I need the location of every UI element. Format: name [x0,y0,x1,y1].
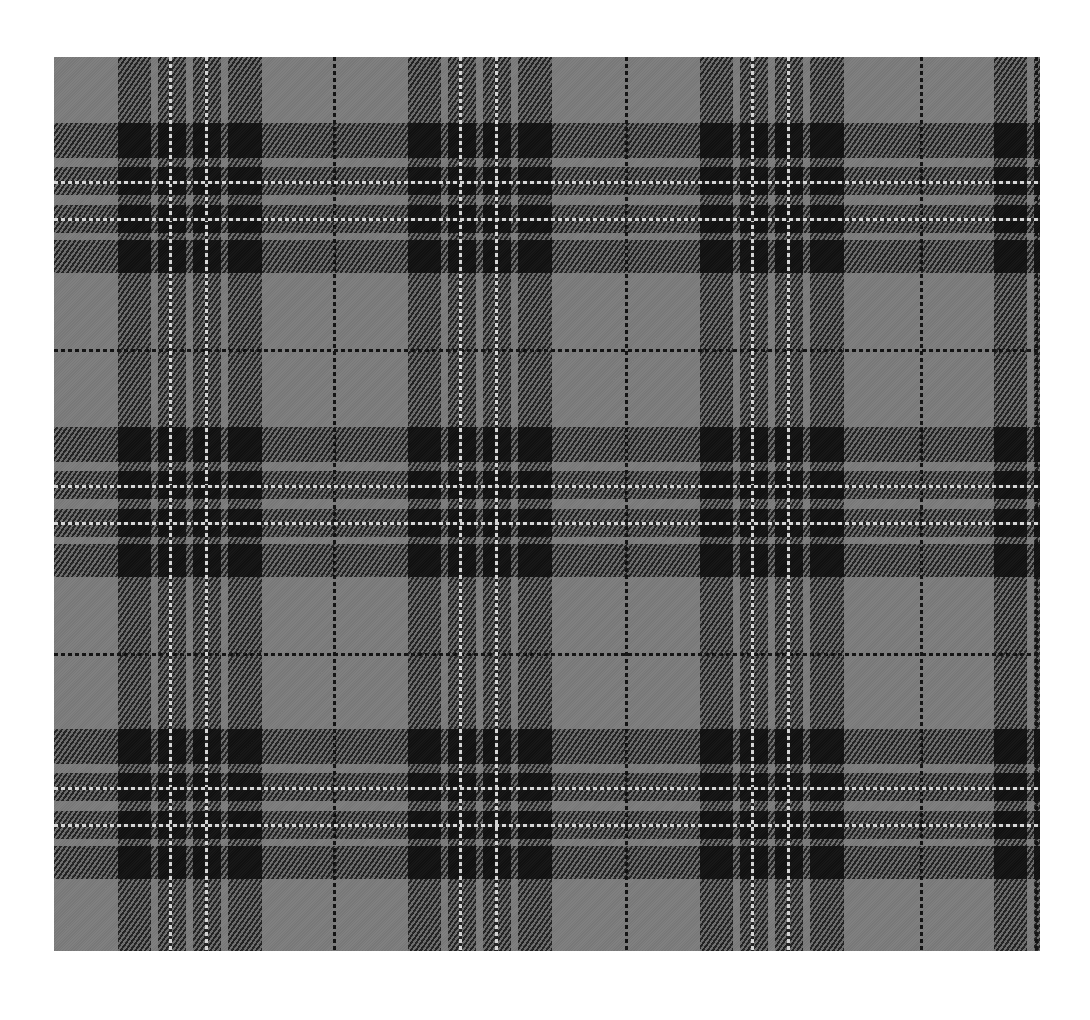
stripe-intersection [740,427,768,462]
stripe-intersection [118,427,151,462]
stripe-intersection [518,240,552,273]
stripe-intersection [408,846,441,879]
stripe-intersection [158,846,186,879]
stripe-intersection [810,427,844,462]
stripe-intersection [810,846,844,879]
stripe-intersection [408,544,441,577]
vertical-thin-line [333,57,336,951]
stripe-intersection [228,427,262,462]
stripe-intersection [700,729,733,764]
tartan-swatch [54,57,1040,951]
stripe-intersection [448,240,476,273]
stripe-intersection [994,846,1027,879]
stripe-intersection [228,846,262,879]
stripe-intersection [408,240,441,273]
stripe-intersection [448,427,476,462]
stripe-intersection [700,240,733,273]
stripe-intersection [810,240,844,273]
vertical-white-pinstripe [459,57,462,951]
stripe-intersection [408,123,441,158]
horizontal-white-pinstripe [54,485,1040,488]
stripe-intersection [448,846,476,879]
horizontal-white-pinstripe [54,218,1040,221]
stripe-intersection [518,123,552,158]
stripe-intersection [994,544,1027,577]
horizontal-thin-line [54,653,1040,656]
stripe-intersection [158,240,186,273]
vertical-thin-line [920,57,923,951]
stripe-intersection [740,544,768,577]
stripe-intersection [700,846,733,879]
stripe-intersection [810,544,844,577]
stripe-intersection [118,123,151,158]
stripe-intersection [740,123,768,158]
vertical-thin-line [1035,57,1038,951]
stripe-intersection [118,240,151,273]
stripe-intersection [810,123,844,158]
stripe-intersection [700,123,733,158]
vertical-white-pinstripe [787,57,790,951]
vertical-white-pinstripe [495,57,498,951]
stripe-intersection [158,123,186,158]
stripe-intersection [118,846,151,879]
stripe-intersection [158,544,186,577]
horizontal-white-pinstripe [54,522,1040,525]
stripe-intersection [408,427,441,462]
stripe-intersection [700,544,733,577]
vertical-white-pinstripe [169,57,172,951]
stripe-intersection [994,123,1027,158]
stripe-intersection [994,729,1027,764]
stripe-intersection [448,123,476,158]
stripe-intersection [518,427,552,462]
stripe-intersection [740,240,768,273]
stripe-intersection [448,729,476,764]
horizontal-white-pinstripe [54,824,1040,827]
horizontal-white-pinstripe [54,787,1040,790]
stripe-intersection [740,846,768,879]
stripe-intersection [228,240,262,273]
stripe-intersection [700,427,733,462]
stripe-intersection [158,729,186,764]
stripe-intersection [228,544,262,577]
stripe-intersection [118,729,151,764]
stripe-intersection [228,729,262,764]
stripe-intersection [994,427,1027,462]
horizontal-white-pinstripe [54,181,1040,184]
vertical-white-pinstripe [751,57,754,951]
stripe-intersection [518,544,552,577]
stripe-intersection [228,123,262,158]
stripe-intersection [994,240,1027,273]
stripe-intersection [408,729,441,764]
stripe-intersection [740,729,768,764]
stripe-intersection [158,427,186,462]
vertical-white-pinstripe [205,57,208,951]
stripe-intersection [810,729,844,764]
vertical-thin-line [625,57,628,951]
horizontal-thin-line [54,349,1040,352]
stripe-intersection [118,544,151,577]
stripe-intersection [518,846,552,879]
stripe-intersection [518,729,552,764]
stripe-intersection [448,544,476,577]
